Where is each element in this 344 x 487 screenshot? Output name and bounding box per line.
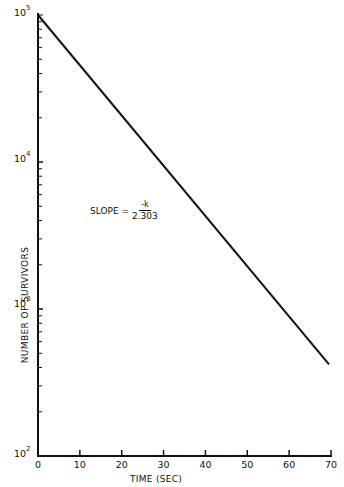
y-tick-1e5: 105: [14, 6, 31, 18]
chart-plot: [0, 0, 344, 487]
x-tick-label: 60: [283, 459, 295, 470]
y-tick-1e2: 102: [14, 447, 31, 459]
x-tick-label: 30: [158, 459, 170, 470]
slope-denominator: 2.303: [132, 211, 158, 222]
x-tick-label: 0: [35, 459, 41, 470]
slope-prefix: SLOPE =: [90, 206, 129, 216]
y-tick-1e4: 104: [14, 152, 31, 164]
x-tick-label: 50: [241, 459, 253, 470]
survivor-line: [38, 15, 329, 364]
slope-numerator: -k: [139, 200, 151, 211]
x-tick-label: 40: [199, 459, 211, 470]
x-axis-title: TIME (SEC): [130, 474, 182, 484]
x-tick-label: 70: [325, 459, 337, 470]
slope-annotation: SLOPE = -k 2.303: [90, 200, 158, 222]
x-tick-label: 20: [116, 459, 128, 470]
y-axis-title: NUMBER OF SURVIVORS: [20, 240, 30, 370]
x-tick-label: 10: [74, 459, 86, 470]
